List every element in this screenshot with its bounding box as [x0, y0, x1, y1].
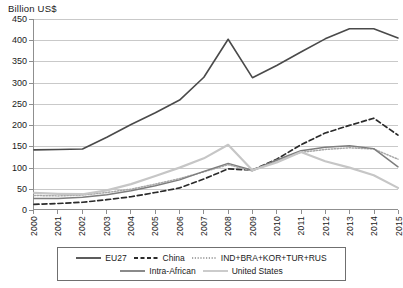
- x-axis-tick-mark: [203, 210, 204, 214]
- x-axis-tick-mark: [179, 210, 180, 214]
- x-axis-tick-mark: [33, 210, 34, 214]
- y-axis-tick-label: 150: [0, 141, 27, 151]
- x-axis-tick-mark: [155, 210, 156, 214]
- legend-item[interactable]: China: [134, 253, 185, 263]
- legend-item[interactable]: United States: [203, 266, 283, 276]
- x-axis-tick-label: 2014: [369, 216, 379, 236]
- series-line: [34, 29, 398, 150]
- series-line: [34, 148, 398, 196]
- x-axis-tick-label: 2007: [199, 216, 209, 236]
- legend-swatch-icon: [120, 267, 145, 275]
- y-axis-tick-label: 450: [0, 14, 27, 24]
- x-axis-tick-mark: [106, 210, 107, 214]
- x-axis-tick-label: 2009: [248, 216, 258, 236]
- legend-swatch-icon: [192, 254, 217, 262]
- x-axis-tick-mark: [276, 210, 277, 214]
- plot-area: [33, 19, 398, 210]
- x-axis-tick-label: 2010: [272, 216, 282, 236]
- x-axis-tick-mark: [349, 210, 350, 214]
- legend-swatch-icon: [203, 267, 228, 275]
- y-axis-tick-label: 350: [0, 56, 27, 66]
- legend-item[interactable]: Intra-African: [120, 266, 195, 276]
- x-axis-tick-label: 2005: [150, 216, 160, 236]
- series-layer: [34, 19, 398, 209]
- legend-item[interactable]: EU27: [76, 253, 126, 263]
- x-axis-tick-mark: [252, 210, 253, 214]
- x-axis-tick-label: 2012: [321, 216, 331, 236]
- legend-label: United States: [232, 266, 283, 276]
- legend-swatch-icon: [134, 254, 159, 262]
- legend-row: Intra-AfricanUnited States: [62, 264, 341, 277]
- legend-label: Intra-African: [149, 266, 195, 276]
- x-axis-tick-label: 2006: [175, 216, 185, 236]
- chart-legend: EU27ChinaIND+BRA+KOR+TUR+RUS Intra-Afric…: [57, 247, 346, 281]
- x-axis-tick-label: 2011: [296, 216, 306, 235]
- y-axis-tick-label: 200: [0, 120, 27, 130]
- x-axis-tick-label: 2015: [394, 216, 403, 236]
- x-axis-tick-label: 2001: [53, 216, 63, 236]
- x-axis-tick-mark: [374, 210, 375, 214]
- legend-item[interactable]: IND+BRA+KOR+TUR+RUS: [192, 253, 327, 263]
- x-axis-tick-label: 2004: [126, 216, 136, 236]
- x-axis-tick-mark: [82, 210, 83, 214]
- y-axis-tick-label: 250: [0, 99, 27, 109]
- legend-row: EU27ChinaIND+BRA+KOR+TUR+RUS: [62, 251, 341, 264]
- x-axis-tick-mark: [57, 210, 58, 214]
- series-line: [34, 145, 398, 194]
- legend-label: IND+BRA+KOR+TUR+RUS: [221, 253, 327, 263]
- legend-label: China: [163, 253, 185, 263]
- y-axis-tick-label: 100: [0, 163, 27, 173]
- x-axis-tick-label: 2008: [223, 216, 233, 236]
- x-axis-tick-mark: [130, 210, 131, 214]
- series-line: [34, 146, 398, 199]
- y-axis-title: Billion US$: [8, 3, 57, 14]
- x-axis-tick-label: 2002: [77, 216, 87, 236]
- x-axis-tick-label: 2000: [29, 216, 39, 236]
- x-axis-tick-mark: [325, 210, 326, 214]
- series-line: [34, 118, 398, 204]
- x-axis-tick-mark: [228, 210, 229, 214]
- chart-container: Billion US$ 050100150200250300350400450 …: [0, 0, 403, 288]
- y-axis-tick-label: 400: [0, 35, 27, 45]
- x-axis-tick-label: 2013: [345, 216, 355, 236]
- x-axis-tick-label: 2003: [102, 216, 112, 236]
- y-axis-tick-label: 0: [0, 205, 27, 215]
- x-axis-tick-mark: [398, 210, 399, 214]
- y-axis-tick-label: 300: [0, 78, 27, 88]
- y-axis-tick-label: 50: [0, 184, 27, 194]
- legend-swatch-icon: [76, 254, 101, 262]
- legend-label: EU27: [105, 253, 126, 263]
- x-axis-tick-mark: [301, 210, 302, 214]
